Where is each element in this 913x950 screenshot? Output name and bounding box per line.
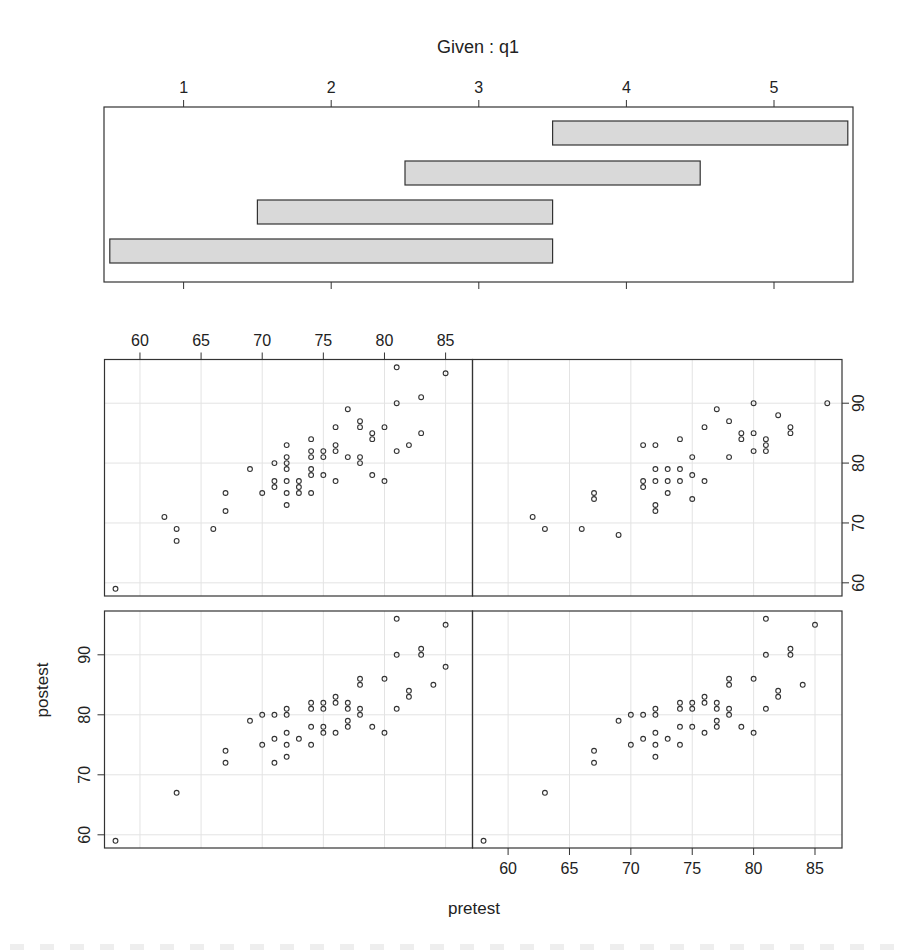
data-point xyxy=(665,467,670,472)
data-point xyxy=(653,509,658,514)
data-point xyxy=(284,754,289,759)
data-point xyxy=(653,706,658,711)
data-point xyxy=(641,479,646,484)
data-point xyxy=(641,485,646,490)
y-tick-label: 60 xyxy=(850,574,867,592)
data-point xyxy=(763,706,768,711)
data-point xyxy=(284,443,289,448)
data-point xyxy=(333,443,338,448)
data-point xyxy=(776,688,781,693)
panel-1-bottom-left: 60708090 xyxy=(76,611,473,848)
data-point xyxy=(592,760,597,765)
data-point xyxy=(284,467,289,472)
data-point xyxy=(309,724,314,729)
given-interval-bar xyxy=(405,161,700,185)
data-point xyxy=(333,425,338,430)
data-point xyxy=(309,742,314,747)
data-point xyxy=(653,479,658,484)
data-point xyxy=(394,616,399,621)
y-tick-label: 80 xyxy=(850,454,867,472)
data-point xyxy=(592,491,597,496)
given-tick-label: 2 xyxy=(327,79,336,96)
x-tick-label: 60 xyxy=(499,860,517,877)
panel-3-top-left: 606570758085 xyxy=(105,332,473,597)
data-point xyxy=(370,473,375,478)
given-title: Given : q1 xyxy=(437,37,519,57)
given-tick-label: 1 xyxy=(179,79,188,96)
data-point xyxy=(309,706,314,711)
data-point xyxy=(370,437,375,442)
cut-off-caption-line xyxy=(10,944,900,950)
data-point xyxy=(211,527,216,532)
data-point xyxy=(284,491,289,496)
data-point xyxy=(714,700,719,705)
data-point xyxy=(284,730,289,735)
data-point xyxy=(284,479,289,484)
data-point xyxy=(678,479,683,484)
data-point xyxy=(345,724,350,729)
data-point xyxy=(702,479,707,484)
data-point xyxy=(714,706,719,711)
data-point xyxy=(113,586,118,591)
data-point xyxy=(702,730,707,735)
data-point xyxy=(248,718,253,723)
data-point xyxy=(394,365,399,370)
data-point xyxy=(333,694,338,699)
data-point xyxy=(788,425,793,430)
data-point xyxy=(592,748,597,753)
data-point xyxy=(284,742,289,747)
data-point xyxy=(653,443,658,448)
data-point xyxy=(358,419,363,424)
x-tick-label: 85 xyxy=(437,332,455,349)
given-interval-bars xyxy=(110,121,848,263)
data-point xyxy=(419,646,424,651)
x-tick-label: 80 xyxy=(376,332,394,349)
data-point xyxy=(223,509,228,514)
data-point xyxy=(653,503,658,508)
data-point xyxy=(665,491,670,496)
data-point xyxy=(653,754,658,759)
data-point xyxy=(309,449,314,454)
data-point xyxy=(739,437,744,442)
coplot-figure: Given : q1 12345 60708090606570758085606… xyxy=(0,0,913,950)
data-point xyxy=(272,485,277,490)
data-point xyxy=(272,760,277,765)
data-point xyxy=(763,449,768,454)
data-point xyxy=(284,503,289,508)
y-tick-label: 70 xyxy=(850,514,867,532)
data-point xyxy=(272,479,277,484)
data-point xyxy=(739,724,744,729)
data-point xyxy=(358,676,363,681)
given-tick-label: 3 xyxy=(474,79,483,96)
given-tick-label: 5 xyxy=(770,79,779,96)
given-interval-bar xyxy=(257,200,552,224)
data-point xyxy=(727,706,732,711)
x-tick-label: 70 xyxy=(622,860,640,877)
data-point xyxy=(223,491,228,496)
data-point xyxy=(370,431,375,436)
data-point xyxy=(788,431,793,436)
data-point xyxy=(543,790,548,795)
data-point xyxy=(788,646,793,651)
data-point xyxy=(763,437,768,442)
data-point xyxy=(284,706,289,711)
y-tick-label: 70 xyxy=(76,766,93,784)
data-point xyxy=(702,425,707,430)
data-point xyxy=(739,431,744,436)
data-point xyxy=(407,694,412,699)
data-point xyxy=(763,616,768,621)
data-point xyxy=(296,485,301,490)
data-point xyxy=(309,491,314,496)
given-tick-label: 4 xyxy=(622,79,631,96)
data-point xyxy=(345,718,350,723)
given-interval-bar xyxy=(553,121,848,145)
data-point xyxy=(345,407,350,412)
given-interval-bar xyxy=(110,239,553,263)
y-tick-label: 60 xyxy=(76,826,93,844)
given-panel: Given : q1 12345 xyxy=(104,37,853,289)
data-point xyxy=(419,431,424,436)
data-point xyxy=(113,838,118,843)
data-point xyxy=(358,455,363,460)
data-point xyxy=(296,479,301,484)
data-point xyxy=(616,718,621,723)
